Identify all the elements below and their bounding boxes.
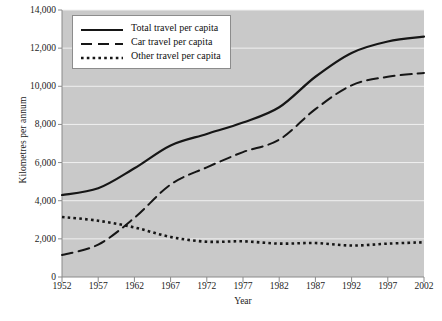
y-tick-label: 6,000: [10, 158, 56, 168]
y-tick-label: 14,000: [10, 5, 56, 15]
legend-item: Other travel per capita: [80, 49, 221, 63]
legend-line-sample-dotted: [80, 50, 124, 62]
legend-line-sample-dashed: [80, 36, 124, 48]
legend-item-label: Car travel per capita: [131, 36, 212, 48]
y-tick-label: 2,000: [10, 234, 56, 244]
y-tick-label: 10,000: [10, 81, 56, 91]
legend-item-label: Total travel per capita: [131, 22, 218, 34]
x-axis-title: Year: [62, 296, 424, 306]
legend-item: Car travel per capita: [80, 35, 221, 49]
y-tick-label: 8,000: [10, 119, 56, 129]
legend-item: Total travel per capita: [80, 21, 221, 35]
travel-per-capita-line-chart: 02,0004,0006,0008,00010,00012,00014,000 …: [0, 0, 442, 321]
x-tick-label: 2002: [402, 281, 442, 291]
legend-line-sample-solid: [80, 22, 124, 34]
y-tick-label: 4,000: [10, 196, 56, 206]
chart-legend: Total travel per capitaCar travel per ca…: [72, 15, 231, 69]
y-axis-tick-labels: 02,0004,0006,0008,00010,00012,00014,000: [6, 0, 56, 321]
y-axis-title: Kilometres per annum: [18, 55, 28, 225]
legend-item-label: Other travel per capita: [131, 50, 221, 62]
y-tick-label: 12,000: [10, 43, 56, 53]
